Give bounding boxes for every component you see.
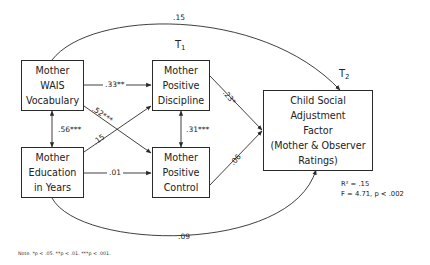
coef-wais-education: .56*** bbox=[58, 126, 81, 134]
node-mother-wais-vocabulary: Mother WAIS Vocabulary bbox=[21, 60, 84, 111]
node-label-line: Child Social bbox=[290, 93, 346, 108]
f-statistic: F = 4.71, p < .002 bbox=[341, 189, 404, 199]
node-label-line: Adjustment bbox=[290, 108, 345, 123]
coef-education-control: .01 bbox=[107, 169, 123, 177]
node-label-line: Positive bbox=[163, 78, 200, 93]
significance-note: Note. *p < .05. **p < .01. ***p < .001. bbox=[18, 251, 111, 256]
node-child-social-adjustment: Child Social Adjustment Factor (Mother &… bbox=[263, 90, 373, 171]
path-diagram: Mother WAIS Vocabulary Mother Education … bbox=[0, 0, 430, 265]
r-squared: R² = .15 bbox=[341, 179, 404, 189]
node-label-line: Mother bbox=[164, 150, 198, 165]
model-fit-stats: R² = .15 F = 4.71, p < .002 bbox=[341, 179, 404, 199]
node-mother-positive-discipline: Mother Positive Discipline bbox=[152, 60, 210, 111]
node-label-line: Mother bbox=[36, 150, 70, 165]
node-label-line: in Years bbox=[34, 180, 71, 195]
node-label-line: WAIS bbox=[40, 78, 64, 93]
coef-education-child: .09 bbox=[178, 233, 190, 241]
node-label-line: Factor bbox=[303, 123, 332, 138]
node-mother-education: Mother Education in Years bbox=[21, 147, 84, 198]
time-label-sub: 2 bbox=[345, 73, 349, 81]
node-label-line: Mother bbox=[36, 63, 70, 78]
node-label-line: Education bbox=[29, 165, 77, 180]
coef-wais-discipline: .33** bbox=[103, 81, 126, 89]
time-label-t1: T1 bbox=[175, 40, 186, 52]
coef-wais-child: .15 bbox=[173, 14, 185, 22]
coef-discipline-control: .31*** bbox=[186, 126, 209, 134]
path-discipline-child bbox=[210, 76, 262, 130]
node-mother-positive-control: Mother Positive Control bbox=[152, 147, 210, 198]
node-label-line: Discipline bbox=[158, 93, 204, 108]
node-label-line: Vocabulary bbox=[26, 93, 79, 108]
node-label-line: Control bbox=[164, 180, 199, 195]
node-label-line: Positive bbox=[163, 165, 200, 180]
time-label-t2: T2 bbox=[339, 69, 350, 81]
time-label-sub: 1 bbox=[181, 44, 185, 52]
node-label-line: (Mother & Observer bbox=[270, 138, 365, 153]
node-label-line: Mother bbox=[164, 63, 198, 78]
node-label-line: Ratings) bbox=[298, 153, 338, 168]
